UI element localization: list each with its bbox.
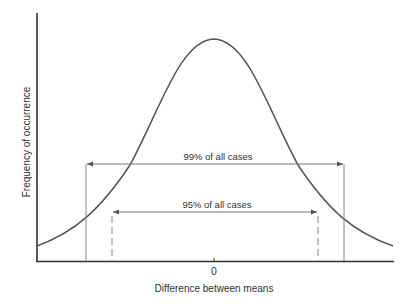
x-tick-zero-label: 0 <box>211 265 217 277</box>
normal-distribution-diagram: 99% of all cases 95% of all cases 0 Diff… <box>0 0 415 306</box>
x-axis-label: Difference between means <box>155 283 274 294</box>
y-axis-label: Frequency of occurrence <box>21 86 32 197</box>
interval-95-label: 95% of all cases <box>182 199 251 210</box>
interval-99-label: 99% of all cases <box>183 151 252 162</box>
bell-curve <box>37 39 393 246</box>
